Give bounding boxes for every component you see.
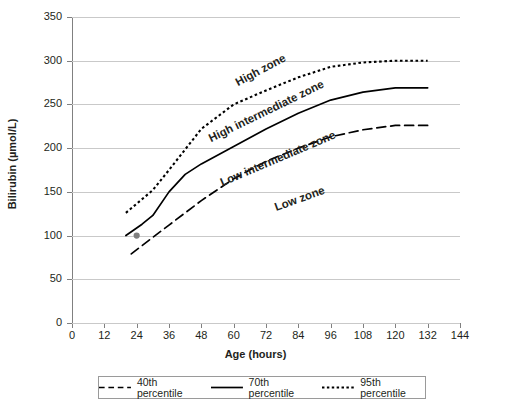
legend-item-70th-percentile: 70th percentile [211, 377, 314, 399]
x-axis-title: Age (hours) [0, 348, 511, 360]
legend-swatch-dashed [99, 383, 131, 392]
curve-40th-percentile [131, 125, 427, 254]
legend-swatch-dotted [322, 383, 354, 392]
legend-label: 70th percentile [249, 377, 314, 399]
legend-item-40th-percentile: 40th percentile [99, 377, 202, 399]
chart-curves [0, 0, 511, 402]
y-axis-title: Bilirubin (µmol/L) [6, 74, 18, 254]
chart-container: 050100150200250300350 012243648607284961… [0, 0, 511, 402]
patient-point-marker [134, 232, 140, 238]
legend-swatch-solid [211, 383, 243, 392]
legend-item-95th-percentile: 95th percentile [322, 377, 425, 399]
legend-label: 95th percentile [360, 377, 425, 399]
chart-legend: 40th percentile70th percentile95th perce… [98, 376, 426, 399]
legend-label: 40th percentile [137, 377, 202, 399]
